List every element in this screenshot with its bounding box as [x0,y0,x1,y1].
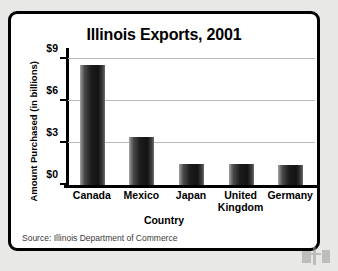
bar-japan [179,164,204,185]
scan-artifact [300,245,332,267]
y-axis-tick-label: $6 [46,84,58,96]
category-label-united-kingdom: United Kingdom [216,190,266,213]
y-axis-tick [60,99,68,101]
y-axis-tick-label: $0 [46,168,58,180]
y-axis-title: Amount Purchased (in billions) [28,62,39,202]
category-label-canada: Canada [67,190,117,202]
y-axis-tick-label: $9 [46,42,58,54]
bar-germany [278,165,303,185]
category-label-germany: Germany [265,190,315,202]
y-axis-tick [60,141,68,143]
scanned-page-background: Illinois Exports, 2001 Amount Purchased … [0,0,338,271]
y-axis-tick-label: $3 [46,126,58,138]
category-label-japan: Japan [166,190,216,202]
y-axis-tick [60,57,68,59]
chart-card: Illinois Exports, 2001 Amount Purchased … [8,11,320,251]
bar-united-kingdom [229,164,254,185]
y-axis-tick [60,183,68,185]
plot-area: $0$3$6$9 CanadaMexicoJapanUnited Kingdom… [67,59,315,185]
gridline [67,58,315,59]
bar-canada [80,65,105,185]
bar-mexico [129,137,154,185]
y-axis-line [66,48,69,185]
x-axis-title: Country [11,214,317,226]
source-note: Source: Illinois Department of Commerce [22,233,177,243]
category-label-mexico: Mexico [117,190,167,202]
